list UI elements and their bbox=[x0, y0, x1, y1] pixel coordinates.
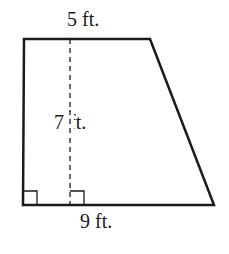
right-angle-marker-left bbox=[24, 191, 37, 205]
trapezoid-diagram: 5 ft. 7 ft. 9 ft. bbox=[0, 0, 229, 254]
right-angle-marker-height bbox=[70, 191, 84, 205]
top-base-label: 5 ft. bbox=[67, 8, 99, 30]
trapezoid-shape bbox=[23, 39, 214, 205]
bottom-base-label: 9 ft. bbox=[80, 210, 112, 232]
